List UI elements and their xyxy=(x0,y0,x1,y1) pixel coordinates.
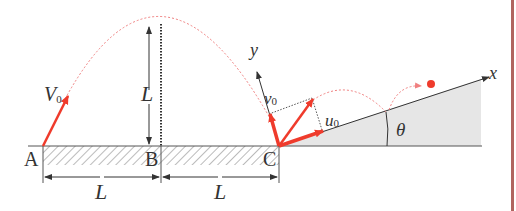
span-bc-label: L xyxy=(213,179,226,204)
v0-label: v0 xyxy=(264,89,278,108)
point-b-label: B xyxy=(145,148,158,170)
v0-component-arrow xyxy=(270,114,279,146)
projectile-diagram: V0 L A B C L L y x v0 u0 θ xyxy=(0,0,516,211)
page-border xyxy=(511,0,514,211)
trajectory-bounce-1 xyxy=(313,90,386,112)
height-label: L xyxy=(140,81,153,106)
launch-velocity-label: V0 xyxy=(44,83,62,105)
ball xyxy=(427,80,435,88)
point-c-label: C xyxy=(263,148,276,170)
point-a-label: A xyxy=(24,148,39,170)
y-axis-label: y xyxy=(248,40,258,60)
u0-label: u0 xyxy=(325,111,340,130)
trajectory-ac xyxy=(65,16,271,120)
x-axis-label: x xyxy=(488,63,497,83)
angle-label: θ xyxy=(396,119,405,140)
span-ab-label: L xyxy=(94,179,107,204)
